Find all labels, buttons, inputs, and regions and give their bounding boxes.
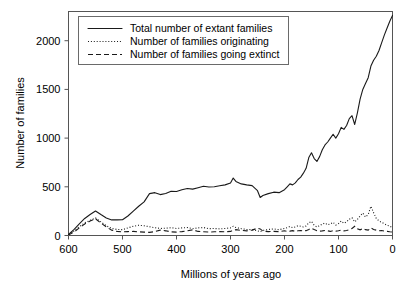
y-tick-label: 1500 xyxy=(36,83,60,95)
x-tick-label: 500 xyxy=(113,243,131,255)
legend-label-extinct: Number of families going extinct xyxy=(130,48,279,60)
y-axis-title: Number of families xyxy=(14,77,26,169)
chart-figure: 0500100015002000 6005004003002001000 Num… xyxy=(0,0,406,296)
y-tick-label: 1000 xyxy=(36,132,60,144)
legend-label-total: Total number of extant families xyxy=(130,22,272,34)
y-tick-label: 500 xyxy=(42,181,60,193)
x-tick-label: 100 xyxy=(329,243,347,255)
x-tick-label: 200 xyxy=(275,243,293,255)
families-through-time-line-chart: 0500100015002000 6005004003002001000 Num… xyxy=(0,0,406,296)
legend-label-originating: Number of families originating xyxy=(130,35,269,47)
y-tick-label: 0 xyxy=(54,230,60,242)
x-tick-label: 300 xyxy=(221,243,239,255)
x-tick-label: 400 xyxy=(167,243,185,255)
y-axis-ticks: 0500100015002000 xyxy=(36,35,68,242)
series-families-going-extinct xyxy=(69,219,393,235)
x-axis-ticks: 6005004003002001000 xyxy=(59,236,395,255)
chart-legend: Total number of extant families Number o… xyxy=(79,17,289,65)
x-tick-label: 0 xyxy=(389,243,395,255)
x-tick-label: 600 xyxy=(59,243,77,255)
y-tick-label: 2000 xyxy=(36,35,60,47)
x-axis-title: Millions of years ago xyxy=(181,268,281,280)
